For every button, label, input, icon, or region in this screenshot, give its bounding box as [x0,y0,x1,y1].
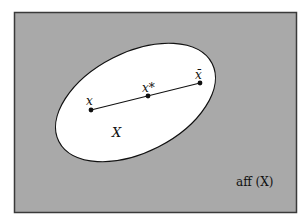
point-x-dot [89,108,94,113]
label-point-xbar: x̄ [195,68,202,82]
label-point-x: x [86,94,93,108]
diagram-canvas: x x* x̄ X aff (X) [0,0,305,224]
label-affine-hull: aff (X) [236,175,273,189]
label-point-xstar: x* [142,81,155,95]
label-set-X: X [111,125,122,140]
